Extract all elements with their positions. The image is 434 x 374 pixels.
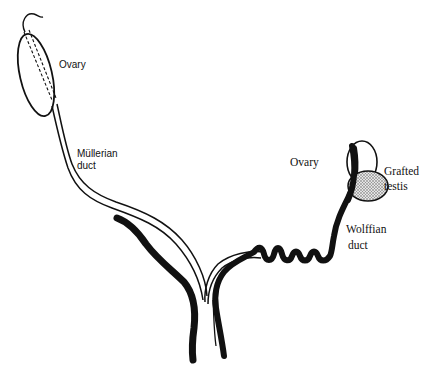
left-ovary-label: Ovary (59, 59, 86, 71)
grafted-testis-label-line2: testis (384, 179, 408, 193)
diagram-canvas: Ovary Müllerian duct Ovary Grafted testi… (0, 0, 434, 374)
grafted-testis-label-line1: Grafted (384, 164, 419, 178)
grafted-testis-icon (348, 146, 388, 201)
wolffian-duct-left-icon (117, 218, 195, 360)
right-ovary-label: Ovary (290, 155, 319, 169)
wolffian-duct-right-icon (215, 148, 355, 356)
diagram-svg (0, 0, 434, 374)
mullerian-duct-label-line1: Müllerian (77, 148, 118, 160)
wolffian-duct-label-line1: Wolffian (346, 222, 386, 236)
wolffian-duct-label-line2: duct (348, 238, 368, 252)
mullerian-duct-label-line2: duct (77, 160, 96, 172)
mullerian-duct-left-icon (52, 104, 207, 300)
left-ovary-icon (11, 14, 61, 120)
